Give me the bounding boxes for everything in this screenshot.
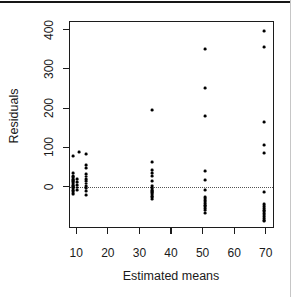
data-point	[204, 179, 207, 182]
document-page: 010020030040010203040506070 Residuals Es…	[0, 0, 291, 297]
data-point	[85, 153, 88, 156]
x-tick-label: 50	[196, 246, 209, 260]
x-tick-mark	[265, 228, 266, 234]
data-point	[204, 188, 207, 191]
y-tick-mark	[63, 29, 69, 30]
data-point	[151, 179, 154, 182]
data-point	[151, 175, 154, 178]
y-tick-mark	[63, 68, 69, 69]
y-tick-label: 0	[42, 183, 56, 190]
x-tick-mark	[76, 228, 77, 234]
x-tick-mark	[170, 228, 171, 234]
x-axis-title: Estimated means	[123, 269, 220, 283]
x-tick-label: 40	[164, 246, 177, 260]
x-tick-label: 10	[70, 246, 83, 260]
data-point	[85, 194, 88, 197]
x-tick-label: 30	[133, 246, 146, 260]
data-point	[72, 193, 75, 196]
plot-area	[69, 21, 275, 229]
y-tick-label: 300	[42, 59, 56, 79]
x-tick-mark	[139, 228, 140, 234]
data-point	[263, 152, 266, 155]
data-point	[204, 87, 207, 90]
data-point	[263, 29, 266, 32]
y-tick-label: 200	[42, 98, 56, 118]
data-point	[151, 109, 154, 112]
x-tick-mark	[202, 228, 203, 234]
data-point	[85, 167, 88, 170]
y-tick-mark	[63, 186, 69, 187]
data-point	[204, 170, 207, 173]
x-tick-mark	[107, 228, 108, 234]
data-point	[85, 190, 88, 193]
data-point	[78, 151, 81, 154]
data-point	[263, 190, 266, 193]
data-point	[151, 198, 154, 201]
page-right-rule	[290, 0, 291, 297]
data-point	[263, 46, 266, 49]
data-point	[76, 189, 79, 192]
y-tick-mark	[63, 108, 69, 109]
x-tick-label: 60	[228, 246, 241, 260]
y-tick-label: 100	[42, 137, 56, 157]
data-point	[263, 220, 266, 223]
y-axis-title: Residuals	[7, 89, 21, 144]
data-point	[263, 120, 266, 123]
y-tick-label: 400	[42, 20, 56, 40]
data-point	[72, 155, 75, 158]
data-point	[151, 161, 154, 164]
x-tick-label: 20	[101, 246, 114, 260]
data-point	[263, 144, 266, 147]
data-point	[204, 115, 207, 118]
zero-reference-line	[70, 187, 273, 188]
x-tick-mark	[234, 228, 235, 234]
y-tick-mark	[63, 147, 69, 148]
x-tick-label: 70	[259, 246, 272, 260]
page-top-rule	[0, 1, 291, 3]
data-point	[204, 48, 207, 51]
data-point	[204, 212, 207, 215]
